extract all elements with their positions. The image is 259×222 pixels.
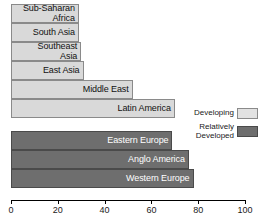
bar-label: Western Europe xyxy=(126,174,192,184)
x-tick-label-80: 80 xyxy=(193,205,203,215)
bar-east-asia: East Asia xyxy=(11,61,84,80)
legend-item-developing: Developing xyxy=(186,108,258,119)
bar-southeast-asia: Southeast Asia xyxy=(11,42,81,61)
x-tick-20 xyxy=(58,200,59,204)
bar-eastern-europe: Eastern Europe xyxy=(11,131,172,150)
legend-item-relatively-developed: Relatively Developed xyxy=(186,123,258,140)
x-tick-80 xyxy=(198,200,199,204)
chart-legend: DevelopingRelatively Developed xyxy=(186,108,258,144)
bar-label: Sub-Saharan Africa xyxy=(23,4,78,23)
plot-area: Sub-Saharan AfricaSouth AsiaSoutheast As… xyxy=(11,4,245,200)
bar-label: Middle East xyxy=(83,85,132,95)
legend-swatch-light xyxy=(237,108,258,119)
legend-swatch-dark xyxy=(237,126,258,137)
bar-sub-saharan-africa: Sub-Saharan Africa xyxy=(11,4,79,23)
bar-label: East Asia xyxy=(43,66,83,76)
bar-label: Southeast Asia xyxy=(38,42,81,61)
bar-label: Eastern Europe xyxy=(107,136,171,146)
bar-label: Anglo America xyxy=(128,155,188,165)
x-tick-0 xyxy=(11,200,12,204)
bar-label: South Asia xyxy=(33,28,78,38)
bar-south-asia: South Asia xyxy=(11,23,79,42)
x-tick-label-40: 40 xyxy=(100,205,110,215)
x-tick-label-60: 60 xyxy=(146,205,156,215)
bar-label: Latin America xyxy=(118,104,174,114)
bar-anglo-america: Anglo America xyxy=(11,150,189,169)
legend-label: Developing xyxy=(194,109,234,118)
bar-latin-america: Latin America xyxy=(11,99,175,118)
legend-label: Relatively Developed xyxy=(196,123,234,140)
x-tick-60 xyxy=(151,200,152,204)
x-tick-label-100: 100 xyxy=(237,205,252,215)
x-tick-label-0: 0 xyxy=(8,205,13,215)
bar-chart: Sub-Saharan AfricaSouth AsiaSoutheast As… xyxy=(0,0,259,222)
bar-middle-east: Middle East xyxy=(11,80,133,99)
x-axis-line xyxy=(11,200,245,201)
bar-western-europe: Western Europe xyxy=(11,169,194,188)
x-tick-40 xyxy=(105,200,106,204)
x-tick-label-20: 20 xyxy=(53,205,63,215)
x-tick-100 xyxy=(245,200,246,204)
